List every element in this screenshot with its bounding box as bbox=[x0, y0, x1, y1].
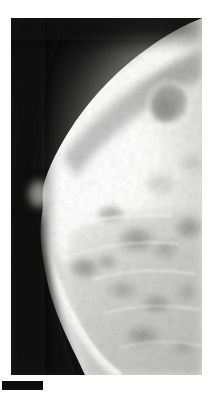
mammogram-radiograph-panel bbox=[11, 18, 202, 375]
film-grain-overlay bbox=[11, 18, 202, 375]
figure-label-bar bbox=[2, 381, 43, 390]
figure-root bbox=[0, 0, 209, 394]
mammogram-image bbox=[11, 18, 202, 375]
